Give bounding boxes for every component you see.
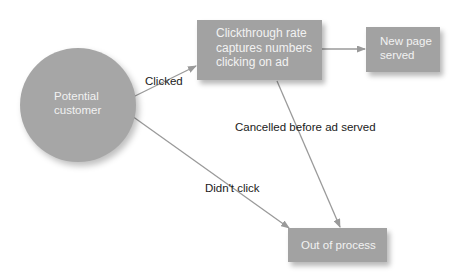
node-text-line: captures numbers — [216, 41, 322, 56]
node-text-line: Out of process — [301, 238, 387, 253]
edge-label-clicked: Clicked — [145, 75, 183, 88]
node-text-line: Potential — [54, 89, 101, 103]
node-clickthrough-rate: Clickthrough rate captures numbers click… — [197, 20, 322, 80]
edge-label-cancelled: Cancelled before ad served — [235, 121, 376, 134]
node-text-line: Clickthrough rate — [216, 26, 322, 41]
arrow-cancelled — [277, 81, 340, 227]
node-text-line: clicking on ad — [216, 55, 322, 70]
node-new-page-served: New page served — [366, 27, 440, 72]
flow-diagram: Potential customer Clickthrough rate cap… — [0, 0, 462, 277]
node-text-line: New page — [380, 34, 440, 48]
node-text-line: served — [380, 48, 440, 62]
node-out-of-process: Out of process — [288, 228, 387, 262]
edge-label-didnt-click: Didn't click — [205, 182, 260, 195]
node-potential-customer: Potential customer — [20, 48, 136, 162]
node-text-line: customer — [54, 103, 101, 117]
